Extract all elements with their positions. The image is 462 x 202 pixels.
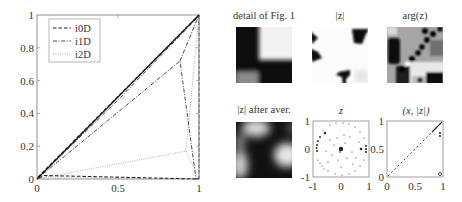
ytick-label: 0.8	[20, 42, 34, 54]
image-argz	[387, 26, 448, 86]
panel-title-xz: (x, |z|)	[403, 105, 430, 117]
panel-title-argz: arg(z)	[403, 10, 428, 22]
ytick-label: 0.5	[370, 143, 384, 155]
xtick-label: 0	[338, 180, 344, 192]
figure: 0 0.2 0.4 0.6 0.8 1 0 0.5 1	[0, 0, 462, 202]
ytick-label: 1	[29, 9, 35, 21]
panel-title-z: z	[338, 105, 343, 116]
xtick-label: 1	[366, 180, 372, 192]
legend-label-i0D: i0D	[75, 23, 91, 34]
xtick-label: 0	[384, 180, 390, 192]
xtick-label: 0.5	[111, 182, 125, 194]
xtick-label: 1	[440, 180, 446, 192]
xtick-label: 0	[34, 182, 40, 194]
ytick-label: 1	[305, 115, 311, 127]
panel-title-aver: |z| after aver.	[237, 104, 290, 115]
xtick-label: -1	[308, 180, 317, 192]
ytick-label: 0.6	[20, 75, 34, 87]
legend: i0D i1D i2D	[49, 19, 100, 62]
xtick-label: 0.5	[408, 180, 422, 192]
scatter-z: 1 0 -1 -1 0 1	[301, 115, 372, 192]
main-plot: 0 0.2 0.4 0.6 0.8 1 0 0.5 1	[20, 9, 202, 194]
xtick-label: 1	[196, 182, 202, 194]
image-detail	[230, 20, 299, 90]
legend-label-i2D: i2D	[75, 49, 91, 60]
ytick-label: 1	[379, 115, 385, 127]
panel-title-detail: detail of Fig. 1	[233, 10, 295, 21]
legend-label-i1D: i1D	[75, 36, 91, 47]
ytick-label: 0.4	[20, 107, 34, 119]
panel-title-absz: |z|	[336, 10, 345, 21]
ytick-label: 0	[305, 143, 311, 155]
scatter-xz: 1 0.5 0 0 0.5 1	[370, 115, 446, 192]
image-aver	[232, 119, 300, 179]
ytick-label: 0.2	[20, 140, 34, 152]
image-absz	[309, 27, 369, 86]
